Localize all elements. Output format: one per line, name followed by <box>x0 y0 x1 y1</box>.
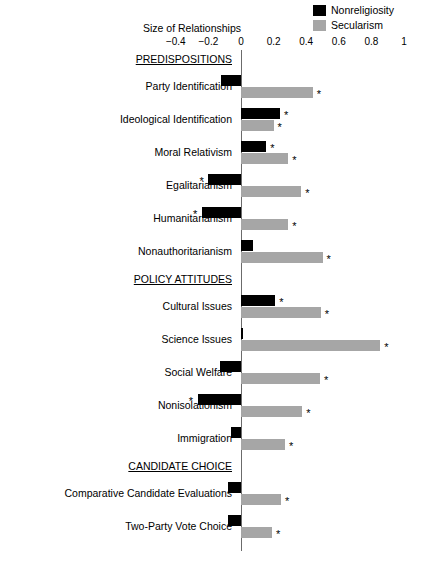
chart-row-label: Ideological Identification <box>120 113 232 125</box>
chart-row: Two-Party Vote Choice* <box>0 514 428 547</box>
chart-row: Social Welfare* <box>0 360 428 393</box>
x-axis-tick-labels: −0.4−0.200.20.40.60.81 <box>0 36 428 49</box>
x-axis-tick-1: −0.2 <box>199 36 219 47</box>
chart-row-label: Science Issues <box>161 333 232 345</box>
significance-star-nonreligiosity: * <box>189 396 193 407</box>
significance-star-secularism: * <box>292 221 296 232</box>
chart-row: Nonisolationism** <box>0 393 428 426</box>
x-axis-tick-7: 1 <box>401 36 407 47</box>
significance-star-secularism: * <box>325 309 329 320</box>
bar-nonreligiosity <box>221 75 241 86</box>
section-header-row: POLICY ATTITUDES <box>0 272 428 294</box>
bar-secularism <box>241 252 323 263</box>
x-axis-tick-2: 0 <box>238 36 244 47</box>
bar-secularism <box>241 87 313 98</box>
section-header-row: CANDIDATE CHOICE <box>0 459 428 481</box>
section-header-row: PREDISPOSITIONS <box>0 52 428 74</box>
bar-nonreligiosity <box>198 394 241 405</box>
bar-nonreligiosity <box>220 361 241 372</box>
bar-nonreligiosity <box>228 515 241 526</box>
chart-row: Immigration* <box>0 426 428 459</box>
chart-row: Ideological Identification** <box>0 107 428 140</box>
bar-secularism <box>241 373 320 384</box>
significance-star-secularism: * <box>276 529 280 540</box>
bar-nonreligiosity <box>208 174 241 185</box>
significance-star-secularism: * <box>292 155 296 166</box>
x-axis-tick-5: 0.6 <box>332 36 346 47</box>
bar-secularism <box>241 153 288 164</box>
significance-star-secularism: * <box>306 408 310 419</box>
chart-row-label: Moral Relativism <box>154 146 232 158</box>
chart-row: Egalitarianism** <box>0 173 428 206</box>
bar-nonreligiosity <box>228 482 241 493</box>
x-axis-tick-6: 0.8 <box>364 36 378 47</box>
bar-secularism <box>241 406 302 417</box>
section-header-label: POLICY ATTITUDES <box>134 273 232 285</box>
bar-secularism <box>241 340 380 351</box>
chart-row: Humanitarianism** <box>0 206 428 239</box>
x-axis-tick-3: 0.2 <box>267 36 281 47</box>
significance-star-nonreligiosity: * <box>284 110 288 121</box>
bar-secularism <box>241 439 285 450</box>
significance-star-secularism: * <box>278 122 282 133</box>
chart-row-label: Nonauthoritarianism <box>138 245 232 257</box>
bar-secularism <box>241 186 301 197</box>
chart-row-label: Comparative Candidate Evaluations <box>64 487 232 499</box>
significance-star-nonreligiosity: * <box>193 209 197 220</box>
chart-row: Comparative Candidate Evaluations* <box>0 481 428 514</box>
bar-secularism <box>241 219 288 230</box>
bar-secularism <box>241 120 274 131</box>
section-header-label: PREDISPOSITIONS <box>136 53 232 65</box>
chart-row-label: Two-Party Vote Choice <box>125 520 232 532</box>
bar-secularism <box>241 494 281 505</box>
bar-secularism <box>241 307 321 318</box>
significance-star-secularism: * <box>289 441 293 452</box>
chart-row-label: Immigration <box>177 432 232 444</box>
significance-star-secularism: * <box>305 188 309 199</box>
significance-star-nonreligiosity: * <box>199 176 203 187</box>
bar-nonreligiosity <box>241 108 280 119</box>
bar-nonreligiosity <box>241 141 266 152</box>
chart-row-label: Cultural Issues <box>163 300 232 312</box>
bar-nonreligiosity <box>241 295 275 306</box>
chart-row: Moral Relativism** <box>0 140 428 173</box>
chart-row: Nonauthoritarianism* <box>0 239 428 272</box>
bar-nonreligiosity <box>241 240 253 251</box>
x-axis-tick-4: 0.4 <box>299 36 313 47</box>
chart-row-label: Party Identification <box>146 80 232 92</box>
chart-row: Science Issues* <box>0 327 428 360</box>
chart-row: Cultural Issues** <box>0 294 428 327</box>
significance-star-secularism: * <box>384 342 388 353</box>
significance-star-secularism: * <box>327 254 331 265</box>
x-axis-tick-0: −0.4 <box>166 36 186 47</box>
bar-nonreligiosity <box>202 207 241 218</box>
significance-star-secularism: * <box>317 89 321 100</box>
chart-plot-area: −0.4−0.200.20.40.60.81 PREDISPOSITIONSPa… <box>0 0 428 566</box>
bar-secularism <box>241 527 272 538</box>
significance-star-secularism: * <box>324 375 328 386</box>
chart-row: Party Identification* <box>0 74 428 107</box>
section-header-label: CANDIDATE CHOICE <box>128 460 232 472</box>
bar-nonreligiosity <box>231 427 241 438</box>
bar-nonreligiosity <box>241 328 243 339</box>
significance-star-secularism: * <box>285 496 289 507</box>
